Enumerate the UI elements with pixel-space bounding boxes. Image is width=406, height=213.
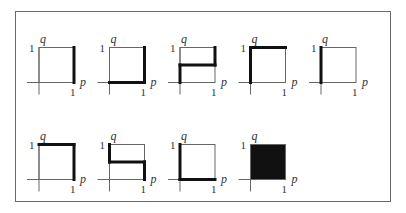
p-axis-label: p	[220, 172, 227, 186]
panel-8: q11p	[168, 129, 227, 195]
panel-6: q11p	[27, 129, 86, 195]
p-tick-1: 1	[211, 86, 217, 98]
p-tick-1: 1	[141, 183, 147, 195]
q-axis-label: q	[322, 32, 328, 46]
panel-5: q11p	[309, 32, 368, 98]
p-axis-label: p	[291, 172, 298, 186]
q-axis-label: q	[111, 32, 117, 46]
unit-square	[39, 145, 74, 180]
unit-square	[110, 48, 145, 83]
p-tick-1: 1	[70, 86, 76, 98]
q-axis-label: q	[40, 32, 46, 46]
panel-4: q11p	[239, 32, 298, 98]
q-tick-1: 1	[29, 139, 35, 151]
p-axis-label: p	[220, 75, 227, 89]
q-axis-label: q	[111, 129, 117, 143]
p-axis-label: p	[150, 75, 157, 89]
unit-square	[39, 48, 74, 83]
p-tick-1: 1	[282, 86, 288, 98]
p-axis-label: p	[79, 172, 86, 186]
p-tick-1: 1	[352, 86, 358, 98]
p-tick-1: 1	[211, 183, 217, 195]
q-axis-label: q	[181, 129, 187, 143]
q-tick-1: 1	[311, 42, 317, 54]
p-axis-label: p	[361, 75, 368, 89]
q-tick-1: 1	[241, 139, 247, 151]
panel-2: q11p	[98, 32, 157, 98]
q-tick-1: 1	[170, 42, 176, 54]
unit-square	[251, 48, 286, 83]
q-tick-1: 1	[241, 42, 247, 54]
q-tick-1: 1	[100, 42, 106, 54]
q-axis-label: q	[40, 129, 46, 143]
p-tick-1: 1	[70, 183, 76, 195]
diagram-canvas: q11pq11pq11pq11pq11pq11pq11pq11pq11p	[0, 0, 406, 213]
q-tick-1: 1	[100, 139, 106, 151]
p-axis-label: p	[291, 75, 298, 89]
q-axis-label: q	[252, 129, 258, 143]
p-axis-label: p	[79, 75, 86, 89]
q-tick-1: 1	[170, 139, 176, 151]
panel-9: q11p	[239, 129, 298, 195]
q-axis-label: q	[181, 32, 187, 46]
unit-square	[180, 145, 215, 180]
q-tick-1: 1	[29, 42, 35, 54]
q-axis-label: q	[252, 32, 258, 46]
p-tick-1: 1	[282, 183, 288, 195]
panel-1: q11p	[27, 32, 86, 98]
p-tick-1: 1	[141, 86, 147, 98]
unit-square	[321, 48, 356, 83]
panel-3: q11p	[168, 32, 227, 98]
p-axis-label: p	[150, 172, 157, 186]
panel-7: q11p	[98, 129, 157, 195]
filled-region	[251, 145, 286, 180]
